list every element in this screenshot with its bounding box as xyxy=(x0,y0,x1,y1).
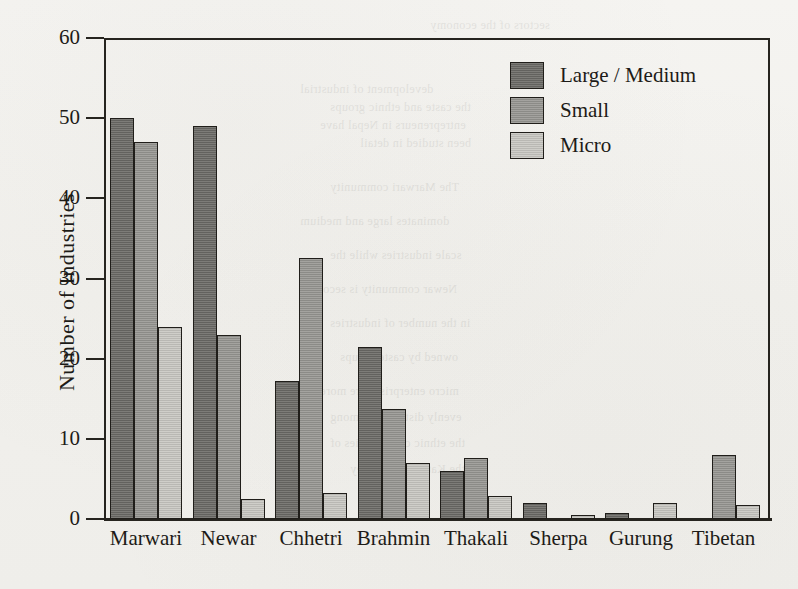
medium-gray-swatch xyxy=(510,97,544,124)
y-axis-tick xyxy=(86,117,104,119)
legend: Large / MediumSmallMicro xyxy=(510,58,750,163)
x-axis-baseline xyxy=(104,518,772,521)
legend-entry-label: Micro xyxy=(560,133,611,158)
legend-entry-label: Large / Medium xyxy=(560,63,696,88)
dark-gray-swatch xyxy=(510,62,544,89)
y-axis-tick xyxy=(86,518,104,520)
swatch-halftone-texture xyxy=(511,98,543,123)
swatch-halftone-texture xyxy=(511,133,543,158)
light-gray-swatch xyxy=(510,132,544,159)
x-axis-category-label: Tibetan xyxy=(666,526,782,551)
y-axis-tick-label: 60 xyxy=(34,27,80,48)
bar-chart: 0102030405060 Number of Industries Marwa… xyxy=(0,0,798,589)
y-axis-tick xyxy=(86,37,104,39)
legend-entry: Large / Medium xyxy=(510,58,750,93)
y-axis-tick-label: 0 xyxy=(34,508,80,529)
legend-entry-label: Small xyxy=(560,98,609,123)
y-axis-tick xyxy=(86,358,104,360)
y-axis-tick xyxy=(86,197,104,199)
y-axis-title: Number of Industries xyxy=(54,82,80,502)
swatch-halftone-texture xyxy=(511,63,543,88)
legend-entry: Small xyxy=(510,93,750,128)
legend-entry: Micro xyxy=(510,128,750,163)
y-axis-tick xyxy=(86,438,104,440)
y-axis-tick xyxy=(86,278,104,280)
